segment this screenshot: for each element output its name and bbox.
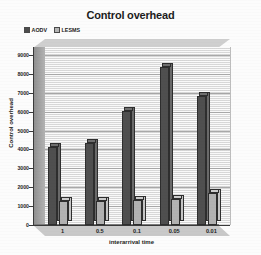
bar-side-face — [217, 189, 221, 221]
y-axis-tick — [29, 93, 33, 94]
y-axis-tick — [29, 187, 33, 188]
bar-front-face — [160, 67, 169, 225]
y-axis-tick — [29, 206, 33, 207]
x-axis-title: interarrival time — [33, 239, 230, 245]
x-axis-tick-label: 0.05 — [157, 228, 191, 234]
y-axis-tick — [29, 225, 33, 226]
bar-aodv-0.01 — [197, 96, 206, 225]
bar-front-face — [208, 193, 217, 225]
bar-aodv-1 — [48, 147, 57, 225]
x-axis-tick-label: 0.01 — [194, 228, 228, 234]
y-axis-tick-label: 0 — [7, 222, 29, 228]
bar-lesms-0.01 — [208, 193, 217, 225]
y-axis-line — [33, 47, 34, 226]
y-axis-tick-label: 1000 — [7, 204, 29, 210]
x-axis-tick-label: 1 — [46, 228, 80, 234]
y-axis-tick — [29, 112, 33, 113]
y-axis-tick — [29, 149, 33, 150]
bar-lesms-1 — [59, 201, 68, 225]
bar-lesms-0.5 — [96, 201, 105, 225]
x-axis-tick-label: 0.1 — [120, 228, 154, 234]
bar-front-face — [122, 111, 131, 225]
bar-aodv-0.5 — [85, 143, 94, 225]
x-axis-tick-label: 0.5 — [83, 228, 117, 234]
bar-front-face — [171, 199, 180, 225]
x-axis-line — [33, 225, 230, 226]
y-axis-tick-label: 9000 — [7, 52, 29, 58]
plot-area: 0100020003000400050006000700080009000 10… — [0, 0, 261, 255]
y-axis-tick-label: 2000 — [7, 185, 29, 191]
bar-lesms-0.1 — [133, 200, 142, 226]
bar-aodv-0.05 — [160, 67, 169, 225]
y-axis-tick — [29, 55, 33, 56]
y-axis-tick — [29, 74, 33, 75]
x-axis-tick-labels: 10.50.10.050.01 — [33, 228, 230, 238]
y-axis-title: Control overhead — [8, 78, 14, 168]
chart-figure: Control overhead AODV LESMS 010002000300… — [0, 0, 261, 255]
bar-lesms-0.05 — [171, 199, 180, 225]
bar-aodv-0.1 — [122, 111, 131, 225]
y-axis-tick — [29, 168, 33, 169]
bar-front-face — [59, 201, 68, 225]
y-axis-tick — [29, 131, 33, 132]
bar-front-face — [85, 143, 94, 225]
bar-front-face — [197, 96, 206, 225]
y-axis-tick-labels: 0100020003000400050006000700080009000 — [3, 47, 29, 226]
bar-series-container — [0, 0, 261, 255]
bar-front-face — [48, 147, 57, 225]
y-axis-tick-label: 8000 — [7, 71, 29, 77]
bar-front-face — [96, 201, 105, 225]
bar-front-face — [133, 200, 142, 226]
